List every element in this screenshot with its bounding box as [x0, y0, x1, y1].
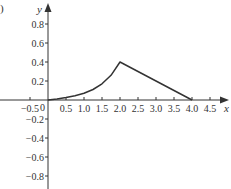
x-tick-label: 2.5 [132, 103, 145, 114]
y-tick-label: 0.8 [32, 19, 45, 30]
x-tick-label: 4.0 [186, 103, 199, 114]
x-tick-label: 1.5 [96, 103, 109, 114]
x-tick-label: 2.0 [114, 103, 127, 114]
y-tick-label: −0.4 [26, 133, 44, 144]
x-tick-label: 4.5 [204, 103, 217, 114]
chart: ) xy0 −0.50.51.01.52.02.53.03.54.04.50.8… [0, 0, 231, 189]
origin-label: 0 [40, 102, 45, 113]
y-tick-label: 0.6 [32, 38, 45, 49]
x-axis-label: x [223, 102, 229, 114]
y-tick-label: −0.6 [26, 152, 44, 163]
y-tick-label: −0.2 [26, 114, 44, 125]
x-tick-label: 1.0 [78, 103, 91, 114]
x-tick-label: 3.0 [150, 103, 163, 114]
y-tick-label: 0.2 [32, 76, 45, 87]
panel-label: ) [0, 2, 4, 15]
x-tick-label: 3.5 [168, 103, 181, 114]
series-line [48, 62, 192, 100]
x-tick-label: 0.5 [60, 103, 73, 114]
y-axis-label: y [36, 3, 42, 15]
y-tick-label: −0.8 [26, 171, 44, 182]
data-series [48, 62, 192, 100]
x-tick-label: −0.5 [21, 103, 39, 114]
y-axis-arrow-icon [45, 3, 52, 12]
y-tick-label: 0.4 [32, 57, 45, 68]
